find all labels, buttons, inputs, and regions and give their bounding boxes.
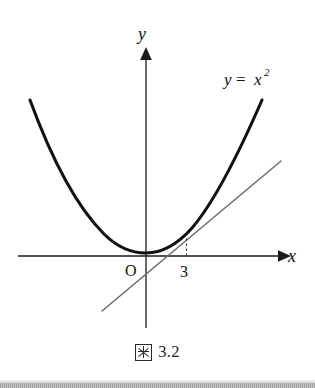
origin-label: O	[125, 262, 137, 279]
y-axis-arrow-icon	[140, 47, 152, 60]
curve-equation-base: x	[253, 70, 262, 89]
curve-equation-lhs: y	[222, 70, 232, 89]
x-axis-label: x	[287, 246, 296, 266]
figure-caption: 3.2	[0, 336, 315, 368]
curve-equation-equals: =	[236, 70, 246, 89]
figure-container: x y O 3 y = x 2 3.2	[0, 0, 315, 388]
tangent-line	[102, 161, 281, 311]
graph-plot: x y O 3 y = x 2	[0, 0, 315, 388]
figure-kanji-glyph	[135, 344, 152, 361]
y-axis-label: y	[136, 24, 146, 44]
page-bottom-edge	[0, 379, 315, 388]
x-tick-label-3: 3	[180, 263, 188, 280]
page-bottom-edge-texture	[0, 383, 315, 388]
figure-caption-number: 3.2	[158, 344, 180, 361]
curve-equation-exponent: 2	[264, 66, 270, 78]
curve-equation-label: y = x 2	[222, 66, 270, 89]
